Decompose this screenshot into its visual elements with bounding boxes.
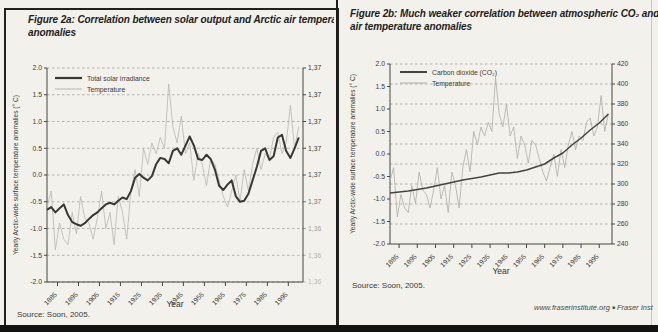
legend-label: Temperature [87, 86, 125, 94]
svg-text:1915: 1915 [439, 253, 455, 269]
svg-text:1,37: 1,37 [308, 145, 321, 152]
svg-text:-1.0: -1.0 [30, 225, 42, 232]
svg-text:1,37: 1,37 [308, 64, 321, 71]
svg-text:0.0: 0.0 [33, 171, 43, 178]
svg-text:1895: 1895 [402, 253, 418, 269]
page-bottom-rule [0, 325, 658, 332]
svg-text:1915: 1915 [106, 291, 122, 307]
svg-text:1,37: 1,37 [308, 91, 321, 98]
y-axis-title: Yearly Arctic-wide surface temperature a… [12, 95, 20, 255]
svg-text:1975: 1975 [231, 291, 247, 307]
figure-2a-title-line1: Figure 2a: Correlation between solar out… [28, 13, 334, 26]
svg-text:1905: 1905 [421, 253, 437, 269]
svg-text:-1.5: -1.5 [373, 218, 385, 225]
svg-text:1885: 1885 [43, 291, 59, 307]
svg-text:1,36: 1,36 [308, 225, 321, 232]
svg-text:1,37: 1,37 [308, 198, 321, 205]
series-carbon-dioxide-co2- [390, 114, 608, 193]
x-axis-title: Year [166, 299, 183, 309]
figure-2b-title-line1: Figure 2b: Much weaker correlation betwe… [350, 7, 658, 20]
svg-text:1,37: 1,37 [308, 118, 321, 125]
svg-text:380: 380 [617, 100, 629, 107]
svg-text:1925: 1925 [126, 291, 142, 307]
svg-text:-1.0: -1.0 [373, 195, 385, 202]
footer-url: www.fraserinstitute.org [534, 303, 610, 312]
svg-text:240: 240 [617, 240, 629, 247]
svg-text:1955: 1955 [512, 253, 528, 269]
figure-2b-title-line2: air temperature anomalies [350, 20, 658, 33]
figure-2b-source-note: Source: Soon, 2005. [352, 281, 425, 290]
figure-2a-source-note: Source: Soon, 2005. [17, 310, 90, 319]
svg-text:-1.5: -1.5 [30, 252, 42, 259]
svg-text:320: 320 [617, 160, 629, 167]
svg-text:340: 340 [617, 140, 629, 147]
svg-text:1995: 1995 [584, 253, 600, 269]
svg-text:1985: 1985 [566, 253, 582, 269]
svg-text:1925: 1925 [457, 253, 473, 269]
scanned-figure-page: Figure 2a: Correlation between solar out… [0, 0, 658, 332]
legend-label: Temperature [432, 80, 470, 88]
svg-text:260: 260 [617, 220, 629, 227]
figure-2a-title: Figure 2a: Correlation between solar out… [28, 13, 334, 39]
svg-text:1885: 1885 [384, 253, 400, 269]
svg-text:1.5: 1.5 [376, 83, 386, 90]
svg-text:-2.0: -2.0 [373, 240, 385, 247]
svg-text:1,37: 1,37 [308, 171, 321, 178]
svg-text:400: 400 [617, 80, 629, 87]
svg-text:1975: 1975 [548, 253, 564, 269]
footer-publication: Fraser Inst [617, 303, 653, 312]
series-temperature [47, 84, 299, 250]
figure-2a-chart: 2.01.51.00.50.0-0.5-1.0-1.5-2.01,371,371… [6, 54, 336, 312]
svg-text:-0.5: -0.5 [30, 198, 42, 205]
svg-text:0.5: 0.5 [376, 128, 386, 135]
svg-text:1.5: 1.5 [33, 91, 43, 98]
svg-text:1935: 1935 [475, 253, 491, 269]
panel-divider-line [336, 0, 338, 326]
legend-label: Total solar irradiance [87, 75, 150, 82]
svg-text:2.0: 2.0 [376, 60, 386, 67]
svg-text:1955: 1955 [189, 291, 205, 307]
svg-text:0.5: 0.5 [33, 145, 43, 152]
svg-text:-2.0: -2.0 [30, 278, 42, 285]
svg-text:1965: 1965 [530, 253, 546, 269]
svg-text:0.0: 0.0 [376, 150, 386, 157]
svg-text:1895: 1895 [64, 291, 80, 307]
page-footer: www.fraserinstitute.org■Fraser Inst [534, 303, 658, 312]
svg-text:300: 300 [617, 180, 629, 187]
svg-text:420: 420 [617, 60, 629, 67]
svg-text:1,36: 1,36 [308, 278, 321, 285]
svg-text:360: 360 [617, 120, 629, 127]
svg-text:280: 280 [617, 200, 629, 207]
svg-text:2.0: 2.0 [33, 64, 43, 71]
svg-text:1985: 1985 [252, 291, 268, 307]
svg-text:-0.5: -0.5 [373, 173, 385, 180]
svg-text:1.0: 1.0 [33, 118, 43, 125]
svg-text:1995: 1995 [273, 291, 289, 307]
legend-label: Carbon dioxide (CO₂) [432, 69, 497, 77]
svg-text:1.0: 1.0 [376, 105, 386, 112]
svg-text:1965: 1965 [210, 291, 226, 307]
figure-2a-title-line2: anomalies [28, 26, 334, 39]
x-axis-title: Year [492, 266, 509, 276]
footer-bullet-icon: ■ [610, 304, 617, 310]
figure-2b-title: Figure 2b: Much weaker correlation betwe… [350, 7, 658, 33]
series-temperature [390, 78, 608, 218]
svg-text:1905: 1905 [85, 291, 101, 307]
svg-text:1935: 1935 [147, 291, 163, 307]
figure-2b-chart: 2.01.51.00.50.0-0.5-1.0-1.5-2.0420400380… [344, 50, 658, 298]
svg-text:1,36: 1,36 [308, 252, 321, 259]
y-axis-title: Yearly Arctic-wide surface temperature a… [349, 74, 357, 234]
